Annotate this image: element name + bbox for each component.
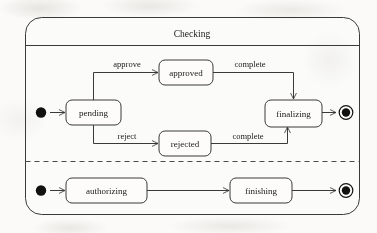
- state-authorizing[interactable]: authorizing: [66, 178, 147, 203]
- final-state-upper-core: [342, 108, 350, 116]
- final-state-lower[interactable]: [339, 184, 353, 198]
- state-diagram-canvas: Checking approve reject complete complet…: [0, 0, 377, 233]
- transition-label-complete-bottom: complete: [232, 131, 263, 141]
- state-finishing-label: finishing: [245, 186, 278, 196]
- transition-label-approve: approve: [113, 59, 141, 69]
- state-rejected[interactable]: rejected: [159, 131, 211, 156]
- initial-pseudostate-upper[interactable]: [36, 107, 46, 117]
- state-finishing[interactable]: finishing: [230, 178, 292, 203]
- state-finalizing[interactable]: finalizing: [265, 100, 322, 127]
- state-approved[interactable]: approved: [159, 60, 213, 85]
- transition-label-reject: reject: [118, 131, 138, 141]
- final-state-lower-core: [342, 186, 350, 194]
- final-state-upper[interactable]: [339, 106, 353, 120]
- state-pending[interactable]: pending: [66, 100, 121, 125]
- composite-state-title: Checking: [174, 29, 211, 39]
- state-authorizing-label: authorizing: [86, 186, 127, 196]
- state-finalizing-label: finalizing: [276, 109, 311, 119]
- initial-pseudostate-lower[interactable]: [36, 185, 46, 195]
- state-rejected-label: rejected: [171, 139, 200, 149]
- state-pending-label: pending: [79, 108, 108, 118]
- transition-label-complete-top: complete: [234, 59, 265, 69]
- uml-state-diagram: Checking approve reject complete complet…: [0, 0, 377, 233]
- state-approved-label: approved: [169, 68, 203, 78]
